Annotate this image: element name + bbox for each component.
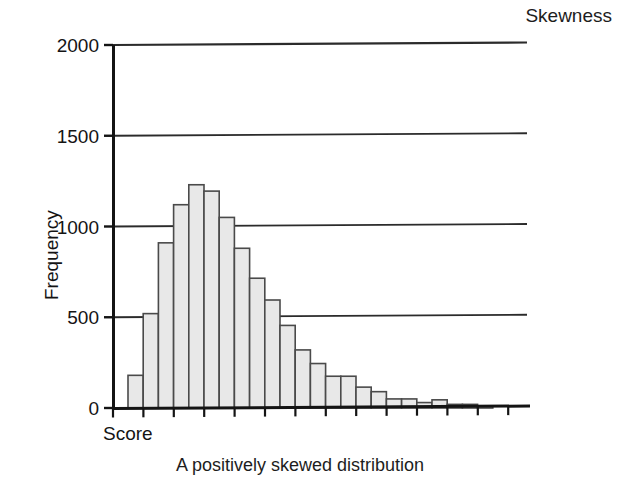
y-tick-label: 0: [88, 398, 99, 419]
y-tick-label: 500: [67, 307, 99, 328]
histogram-bar: [295, 350, 310, 408]
histogram-bar: [341, 376, 356, 408]
histogram-bar: [234, 248, 249, 408]
histogram-bar: [250, 278, 265, 408]
x-axis-label: Score: [103, 423, 153, 444]
histogram-bar: [219, 217, 234, 408]
histogram-bar: [189, 185, 204, 408]
chart-caption: A positively skewed distribution: [176, 455, 424, 475]
histogram-bar: [174, 205, 189, 408]
skewness-histogram-figure: Skewness 0500100015002000 Frequency Scor…: [0, 0, 617, 487]
histogram-bar: [204, 191, 219, 408]
y-tick-label: 1500: [57, 126, 99, 147]
y-tick-label: 2000: [57, 35, 99, 56]
histogram-bar: [265, 300, 280, 408]
y-axis-label: Frequency: [41, 210, 62, 300]
histogram-bar: [310, 364, 325, 408]
histogram-bar: [356, 387, 371, 408]
histogram-bar: [326, 376, 341, 408]
histogram-bar: [158, 243, 173, 408]
histogram-bar: [280, 325, 295, 408]
y-tick-label: 1000: [57, 217, 99, 238]
chart-title: Skewness: [525, 5, 612, 26]
histogram-bar: [128, 375, 143, 408]
histogram-bar: [143, 314, 158, 408]
chart-svg: Skewness 0500100015002000 Frequency Scor…: [0, 0, 617, 487]
